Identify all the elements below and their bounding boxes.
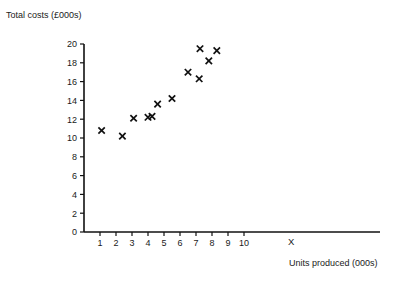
y-tick-label: 8 bbox=[72, 152, 77, 162]
data-point-marker bbox=[98, 127, 104, 133]
data-point-marker bbox=[169, 95, 175, 101]
data-point-marker bbox=[197, 46, 203, 52]
x-tick-label: 8 bbox=[209, 238, 214, 248]
y-tick-label: 4 bbox=[72, 190, 77, 200]
y-tick-label: 10 bbox=[67, 133, 77, 143]
y-tick-label: 16 bbox=[67, 77, 77, 87]
data-point-marker bbox=[214, 47, 220, 53]
x-axis-ticks: 12345678910 bbox=[97, 232, 249, 248]
x-tick-label: 4 bbox=[145, 238, 150, 248]
data-points bbox=[98, 46, 220, 140]
plot-area: 02468101214161820 12345678910 bbox=[0, 0, 411, 283]
x-tick-label: 5 bbox=[161, 238, 166, 248]
y-tick-label: 20 bbox=[67, 39, 77, 49]
data-point-marker bbox=[196, 76, 202, 82]
x-tick-label: 10 bbox=[239, 238, 249, 248]
x-tick-label: 3 bbox=[129, 238, 134, 248]
y-tick-label: 2 bbox=[72, 209, 77, 219]
x-tick-label: 7 bbox=[193, 238, 198, 248]
scatter-chart: Total costs (£000s) 02468101214161820 12… bbox=[0, 0, 411, 283]
y-axis-ticks: 02468101214161820 bbox=[67, 39, 84, 237]
x-tick-label: 9 bbox=[225, 238, 230, 248]
x-axis-title: Units produced (000s) bbox=[289, 258, 378, 269]
data-point-marker bbox=[185, 69, 191, 75]
x-tick-label: 1 bbox=[97, 238, 102, 248]
y-tick-label: 18 bbox=[67, 58, 77, 68]
y-tick-label: 12 bbox=[67, 115, 77, 125]
y-tick-label: 6 bbox=[72, 171, 77, 181]
data-point-marker bbox=[154, 101, 160, 107]
y-tick-label: 0 bbox=[72, 227, 77, 237]
data-point-marker bbox=[119, 133, 125, 139]
data-point-marker bbox=[130, 115, 136, 121]
x-tick-label: 6 bbox=[177, 238, 182, 248]
x-tick-label: 2 bbox=[113, 238, 118, 248]
x-axis-symbol: X bbox=[288, 236, 294, 247]
y-tick-label: 14 bbox=[67, 96, 77, 106]
data-point-marker bbox=[206, 58, 212, 64]
